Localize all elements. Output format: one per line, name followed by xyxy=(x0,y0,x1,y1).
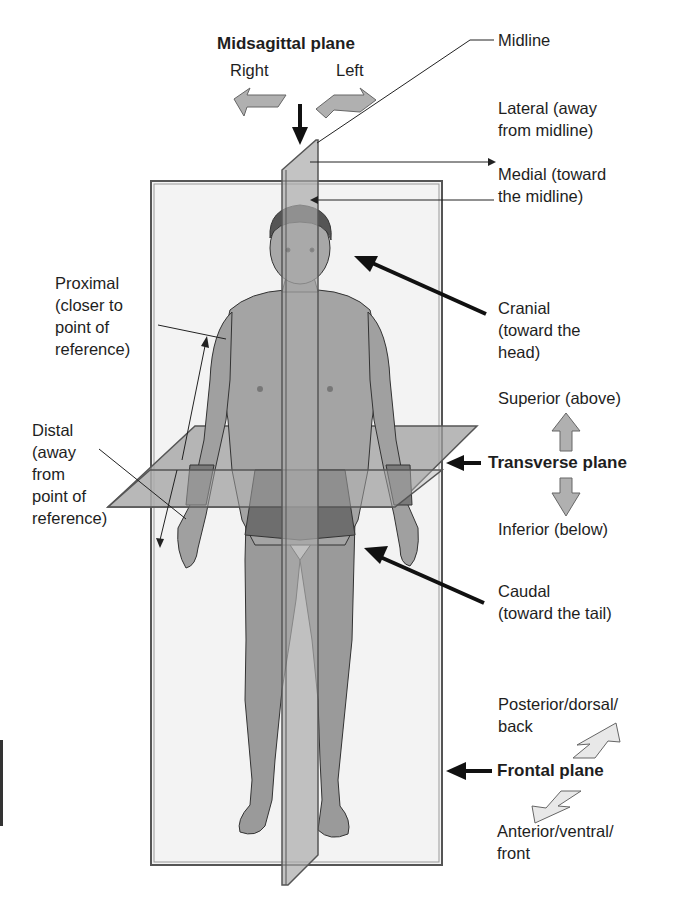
superior-arrow-icon xyxy=(552,413,580,451)
label-medial: Medial (toward the midline) xyxy=(498,163,606,207)
label-lateral: Lateral (away from midline) xyxy=(498,97,597,141)
label-frontal-plane: Frontal plane xyxy=(497,760,604,782)
left-arrow-icon xyxy=(316,88,376,118)
label-proximal: Proximal (closer to point of reference) xyxy=(55,272,130,360)
label-inferior: Inferior (below) xyxy=(498,518,608,540)
inferior-arrow-icon xyxy=(552,478,580,516)
down-arrow-icon xyxy=(292,127,308,145)
direction-right: Right xyxy=(230,59,269,81)
label-superior: Superior (above) xyxy=(498,387,621,409)
anterior-arrow-icon xyxy=(532,791,581,823)
label-anterior: Anterior/ventral/ front xyxy=(497,820,613,864)
label-caudal: Caudal (toward the tail) xyxy=(498,580,612,624)
label-distal: Distal (away from point of reference) xyxy=(32,419,107,529)
title-midsagittal-plane: Midsagittal plane xyxy=(217,33,355,55)
label-transverse-plane: Transverse plane xyxy=(488,452,627,474)
sagittal-plane xyxy=(282,140,318,885)
edge-bar xyxy=(0,740,3,826)
label-posterior: Posterior/dorsal/ back xyxy=(498,693,618,737)
direction-left: Left xyxy=(336,59,364,81)
label-cranial: Cranial (toward the head) xyxy=(498,297,581,363)
right-arrow-icon xyxy=(234,88,286,116)
label-midline: Midline xyxy=(498,29,550,51)
